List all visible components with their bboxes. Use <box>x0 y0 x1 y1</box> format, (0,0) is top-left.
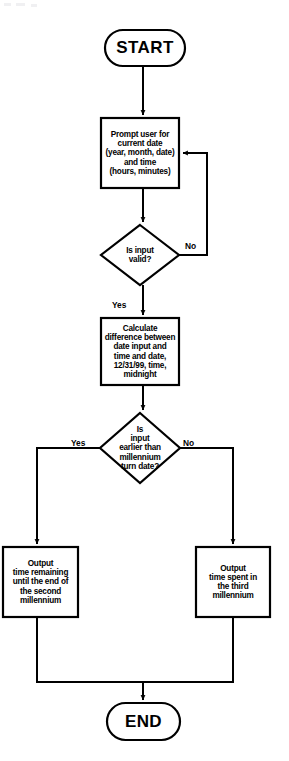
prompt-box-shape <box>101 118 179 188</box>
output-remaining-box-shape <box>3 547 78 617</box>
flowchart-diagram: START Prompt user for current date (year… <box>0 0 289 761</box>
output-spent-box-shape <box>196 547 270 617</box>
edge-validate-no-loopback <box>179 153 207 255</box>
start-terminal-shape <box>105 30 185 66</box>
end-terminal-shape <box>107 703 180 740</box>
edge-compare-no-branch <box>180 448 233 544</box>
validate-diamond-shape <box>101 225 179 285</box>
compare-diamond-shape <box>100 413 180 483</box>
calculate-box-shape <box>101 318 179 385</box>
flowchart-canvas <box>0 0 289 761</box>
edge-outputs-merge <box>37 617 233 682</box>
edge-compare-yes-branch <box>37 448 100 544</box>
